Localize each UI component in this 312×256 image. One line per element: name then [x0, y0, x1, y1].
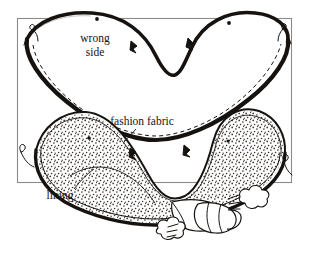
notch-mark-lower-right [183, 145, 190, 157]
sewing-illustration-figure: wrong side [0, 0, 312, 256]
dot-mark-lower-right [226, 139, 229, 142]
dot-mark-upper-right [227, 21, 231, 25]
lower-assembled-piece: fashion fabric lining [20, 100, 292, 232]
dot-mark-lower-left [87, 136, 91, 140]
label-wrong-side-line1: wrong [80, 32, 110, 45]
dot-mark-upper-left [95, 17, 99, 21]
label-lining: lining [47, 189, 74, 202]
label-fashion-fabric: fashion fabric [110, 115, 174, 127]
label-wrong-side-line2: side [86, 46, 105, 58]
thread-tail-lower-left [20, 144, 34, 167]
figure-canvas: wrong side [0, 0, 312, 256]
